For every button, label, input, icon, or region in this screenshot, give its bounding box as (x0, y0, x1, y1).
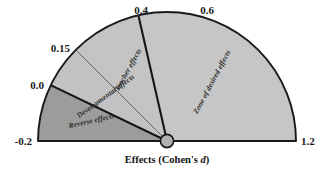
tick-label-0-4: 0.4 (134, 4, 148, 16)
tick-label-0-15: 0.15 (51, 42, 71, 54)
tick-label-0-0: 0.0 (30, 79, 44, 91)
tick-label-0-6: 0.6 (200, 4, 214, 16)
axis-caption-text: Effects (Cohen's (125, 154, 201, 166)
tick-label-neg-0-2: -0.2 (15, 135, 33, 147)
axis-caption-close: ) (206, 154, 210, 166)
tick-label-1-2: 1.2 (301, 135, 315, 147)
pivot-hub-icon (160, 134, 173, 147)
axis-caption: Effects (Cohen's d) (125, 154, 210, 166)
barometer-figure: -0.2 0.0 0.15 0.4 0.6 1.2 Reverse effect… (0, 0, 330, 175)
barometer-svg: -0.2 0.0 0.15 0.4 0.6 1.2 Reverse effect… (0, 0, 330, 175)
